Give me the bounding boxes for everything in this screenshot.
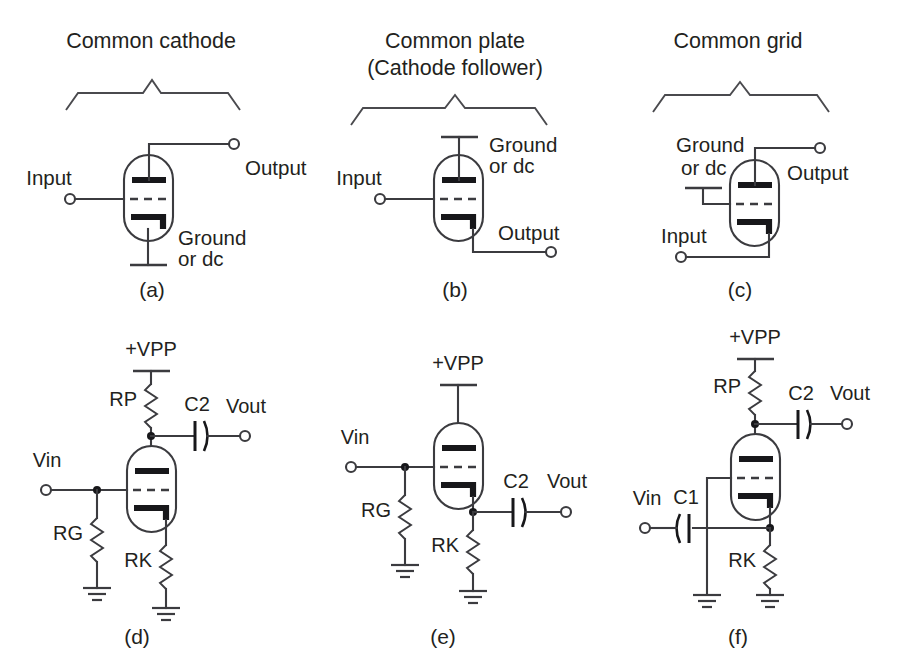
panel-e-output-label: Vout <box>547 470 587 492</box>
panel-a-cathode-electrode <box>131 217 163 229</box>
panel-e-rg-resistor <box>399 495 411 539</box>
panel-f-grid-ground-symbol <box>693 595 721 607</box>
panel-a-letter: (a) <box>139 278 165 301</box>
panel-d-rg-ground-symbol <box>83 588 111 600</box>
panel-f-output-terminal[interactable] <box>842 419 852 429</box>
panel-f-grid-lead <box>707 478 731 595</box>
panel-c-output-terminal[interactable] <box>815 143 825 153</box>
panel-d-rp-label: RP <box>109 388 137 410</box>
panel-c-cathode-electrode <box>737 222 769 234</box>
panel-f-c1-label: C1 <box>673 486 699 508</box>
panel-d: +VPP RP C2 Vout Vin RG <box>33 338 267 648</box>
panel-e-c2-label: C2 <box>503 470 529 492</box>
panel-a-common-label-2: or dc <box>178 247 224 270</box>
panel-d-cathode-electrode <box>134 508 166 520</box>
panel-c: Common grid Output Ground or dc Input (c… <box>653 29 849 301</box>
panel-e-supply-label: +VPP <box>432 352 484 374</box>
panel-e: +VPP Vin RG C2 Vout <box>341 352 588 648</box>
panel-a-common-label-1: Ground <box>178 226 246 249</box>
panel-d-output-terminal[interactable] <box>240 431 250 441</box>
panel-e-rg-label: RG <box>361 499 391 521</box>
panel-b-letter: (b) <box>442 278 468 301</box>
panel-b-input-label: Input <box>336 166 382 189</box>
panel-b: Common plate (Cathode follower) Ground o… <box>336 29 560 301</box>
panel-e-input-terminal[interactable] <box>346 462 356 472</box>
panel-c-input-label: Input <box>661 224 707 247</box>
figure-root: Common cathode Output Input Ground or dc… <box>0 0 907 670</box>
panel-f-rp-label: RP <box>713 375 741 397</box>
panel-d-input-label: Vin <box>33 449 62 471</box>
panel-a-title: Common cathode <box>66 29 236 53</box>
panel-f-rp-resistor <box>749 371 761 415</box>
panel-f-c2-label: C2 <box>788 382 814 404</box>
panel-d-rk-ground-symbol <box>152 608 180 620</box>
panel-f-supply-label: +VPP <box>729 326 781 348</box>
panel-d-supply-label: +VPP <box>125 338 177 360</box>
panel-e-rk-ground-symbol <box>459 591 487 603</box>
panel-c-grid-lead <box>703 188 730 204</box>
panel-b-output-terminal[interactable] <box>546 247 556 257</box>
panel-f: +VPP RP C2 Vout <box>633 326 871 648</box>
panel-d-rg-label: RG <box>53 522 83 544</box>
panel-c-common-label-1: Ground <box>676 133 744 156</box>
panel-c-common-label-2: or dc <box>681 156 727 179</box>
panel-e-cathode-electrode <box>441 485 473 497</box>
panel-b-input-terminal[interactable] <box>375 194 385 204</box>
panel-e-output-terminal[interactable] <box>561 507 571 517</box>
panel-d-input-terminal[interactable] <box>41 485 51 495</box>
panel-d-output-label: Vout <box>226 395 266 417</box>
panel-a-output-terminal[interactable] <box>229 139 239 149</box>
panel-d-c2-label: C2 <box>184 393 210 415</box>
panel-f-input-label: Vin <box>633 487 662 509</box>
panel-e-rg-ground-symbol <box>391 565 419 577</box>
panel-f-input-terminal[interactable] <box>640 523 650 533</box>
panel-c-input-terminal[interactable] <box>676 252 686 262</box>
panel-c-brace <box>653 82 829 112</box>
panel-b-brace <box>351 95 547 125</box>
panel-f-rk-label: RK <box>728 549 756 571</box>
panel-b-common-label-2: or dc <box>489 154 535 177</box>
panel-f-letter: (f) <box>728 625 748 648</box>
panel-b-cathode-electrode <box>441 217 473 229</box>
panel-d-letter: (d) <box>124 625 150 648</box>
panel-b-title-line2: (Cathode follower) <box>367 56 543 80</box>
panel-d-rg-resistor <box>91 518 103 562</box>
panel-b-title-line1: Common plate <box>385 29 525 53</box>
panel-b-common-label-1: Ground <box>489 133 557 156</box>
panel-c-letter: (c) <box>728 278 753 301</box>
panel-f-rk-ground-symbol <box>756 595 784 607</box>
panel-a-plate-lead <box>149 144 229 180</box>
panel-e-rk-resistor <box>467 530 479 574</box>
panel-a-brace <box>66 80 240 110</box>
panel-d-rk-resistor <box>160 545 172 589</box>
circuit-figure-canvas: Common cathode Output Input Ground or dc… <box>0 0 907 670</box>
panel-a: Common cathode Output Input Ground or dc… <box>26 29 307 301</box>
panel-b-output-label: Output <box>498 221 560 244</box>
panel-c-output-label: Output <box>787 161 849 184</box>
panel-c-title: Common grid <box>673 29 802 53</box>
panel-e-input-label: Vin <box>341 426 370 448</box>
panel-f-rk-resistor <box>764 545 776 589</box>
panel-a-output-label: Output <box>245 156 307 179</box>
panel-a-input-terminal[interactable] <box>65 194 75 204</box>
panel-e-rk-label: RK <box>431 534 459 556</box>
panel-f-cathode-electrode <box>738 496 770 508</box>
panel-d-rk-label: RK <box>124 549 152 571</box>
panel-e-letter: (e) <box>430 625 456 648</box>
panel-a-input-label: Input <box>26 166 72 189</box>
panel-d-rp-resistor <box>145 384 157 428</box>
panel-f-output-label: Vout <box>830 382 870 404</box>
